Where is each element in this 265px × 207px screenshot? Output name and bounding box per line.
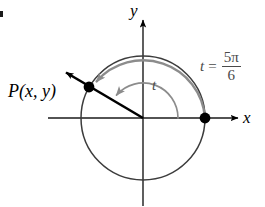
x-axis-label: x <box>243 109 251 126</box>
terminal-ray <box>66 73 143 119</box>
unit-circle-svg <box>0 0 265 207</box>
y-axis-label: y <box>130 2 138 19</box>
angle-fraction: 5π 6 <box>222 50 241 83</box>
terminal-point-label: P(x, y) <box>8 82 56 100</box>
angle-variable: t <box>200 59 204 74</box>
fraction-denominator: 6 <box>225 67 237 83</box>
angle-arc-label: t <box>152 78 156 93</box>
initial-point-dot <box>200 113 211 124</box>
unit-circle-figure: y x P(x, y) t t = 5π 6 <box>0 0 265 207</box>
fraction-numerator: 5π <box>222 50 241 66</box>
angle-value-label: t = 5π 6 <box>200 50 241 83</box>
terminal-point-dot <box>84 82 95 93</box>
circle-direction-arc <box>97 60 205 118</box>
angle-arc <box>117 83 179 118</box>
equals-sign: = <box>208 59 216 74</box>
